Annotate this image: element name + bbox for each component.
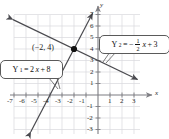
- callout-y2-equation: Y2 = − 1 2 x + 3: [99, 35, 169, 54]
- y1-plus: +: [41, 66, 46, 74]
- y-tick-label-5: 5: [90, 34, 94, 41]
- y-tick-label-3: 3: [90, 57, 94, 64]
- x-tick-label--5: -5: [31, 98, 37, 105]
- y2-name: Y: [111, 41, 117, 49]
- y2-subscript: 2: [119, 43, 122, 49]
- x-tick-label-1: 1: [108, 98, 112, 105]
- y2-fraction-numerator: 1: [135, 38, 140, 44]
- y-tick-label-1: 1: [90, 80, 94, 87]
- y2-constant: 3: [154, 41, 158, 49]
- x-tick-label--7: -7: [7, 98, 13, 105]
- y2-variable: x: [142, 41, 146, 49]
- intersection-point-label: (−2, 4): [32, 44, 54, 52]
- x-tick-label--4: -4: [43, 98, 49, 105]
- x-tick-label--1: -1: [79, 98, 85, 105]
- x-tick-label--6: -6: [19, 98, 25, 105]
- x-tick-label-3: 3: [132, 98, 136, 105]
- y2-fraction-one-half: 1 2: [135, 38, 140, 52]
- y1-constant: 8: [47, 66, 51, 74]
- graph-figure: -7 -6 -5 -4 -3 -2 -1 1 2 3 7 6 5 4 3 2 1…: [0, 0, 169, 139]
- y-tick-label-6: 6: [90, 23, 94, 30]
- intersection-point-marker: [71, 46, 77, 52]
- x-tick-label--3: -3: [55, 98, 61, 105]
- y2-fraction-denominator: 2: [135, 46, 140, 52]
- y2-equals: =: [123, 41, 128, 49]
- y1-name: Y: [12, 66, 18, 74]
- y1-subscript: 1: [20, 68, 23, 74]
- y-tick-label--1: -1: [87, 103, 93, 110]
- y2-minus-sign: −: [129, 41, 134, 49]
- y1-equals: =: [24, 66, 29, 74]
- x-axis-label: x: [155, 90, 158, 97]
- callout-y1-equation: Y1 = 2x + 8: [0, 60, 63, 79]
- x-tick-label-2: 2: [120, 98, 124, 105]
- y-tick-label-2: 2: [90, 69, 94, 76]
- y-tick-label-7: 7: [90, 11, 94, 18]
- y2-plus: +: [148, 41, 153, 49]
- x-tick-label--2: -2: [67, 98, 73, 105]
- y1-coefficient: 2: [30, 66, 34, 74]
- y1-variable: x: [35, 66, 39, 74]
- y-tick-label--3: -3: [87, 126, 93, 133]
- y-tick-label-4: 4: [90, 46, 94, 53]
- y-axis-label: y: [100, 2, 103, 9]
- y-tick-label--2: -2: [87, 115, 93, 122]
